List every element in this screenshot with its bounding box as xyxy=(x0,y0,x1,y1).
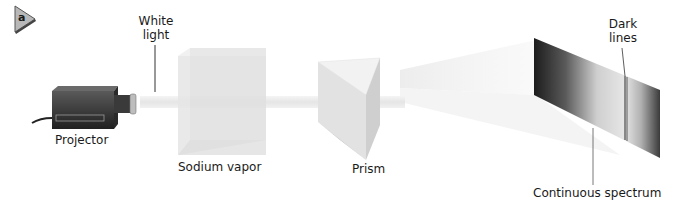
diagram-canvas xyxy=(0,0,676,205)
dark-lines-label-line1: Dark xyxy=(605,17,641,31)
dark-lines-label: Dark lines xyxy=(605,17,641,45)
sodium-vapor-cube xyxy=(178,48,266,155)
panel-marker-letter: a xyxy=(18,11,25,25)
prism-icon xyxy=(318,58,380,160)
projector-icon xyxy=(52,86,136,129)
power-cord-icon xyxy=(32,118,52,123)
continuous-spectrum-label: Continuous spectrum xyxy=(533,186,661,200)
white-light-label: White light xyxy=(135,14,177,42)
prism-label: Prism xyxy=(352,162,385,176)
white-light-label-line2: light xyxy=(135,28,177,42)
dark-lines-label-line2: lines xyxy=(605,31,641,45)
projector-label: Projector xyxy=(55,133,108,147)
white-light-label-line1: White xyxy=(135,14,177,28)
dark-lines-leader xyxy=(622,48,625,76)
sodium-vapor-label: Sodium vapor xyxy=(178,160,261,174)
